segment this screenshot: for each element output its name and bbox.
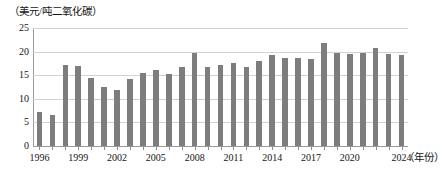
bar-2022 (373, 48, 379, 146)
bar-2005 (153, 70, 159, 146)
bar-2003 (127, 79, 133, 146)
bar-2013 (256, 61, 262, 146)
x-tick-2001 (104, 147, 105, 150)
bar-2023 (386, 54, 392, 146)
x-tick-2020 (350, 147, 351, 150)
x-axis-tick-labels: 1996199920022005200820112014201720202024 (33, 151, 408, 167)
bar-2012 (244, 67, 250, 146)
x-tick-label-2005: 2005 (146, 151, 166, 165)
bar-1997 (50, 115, 56, 146)
x-tick-2019 (337, 147, 338, 150)
x-tick-1999 (78, 147, 79, 150)
x-tick-label-2020: 2020 (340, 151, 360, 165)
x-tick-2024 (402, 147, 403, 150)
x-tick-label-2008: 2008 (185, 151, 205, 165)
x-tick-2003 (130, 147, 131, 150)
x-tick-2016 (298, 147, 299, 150)
bar-2000 (88, 78, 94, 146)
bar-2016 (295, 58, 301, 146)
bar-2015 (282, 58, 288, 146)
x-tick-2005 (156, 147, 157, 150)
bar-2017 (308, 59, 314, 146)
x-tick-2015 (285, 147, 286, 150)
bar-2010 (218, 65, 224, 146)
x-tick-2023 (389, 147, 390, 150)
x-tick-2004 (143, 147, 144, 150)
x-axis-ticks (33, 147, 408, 150)
x-tick-2014 (272, 147, 273, 150)
y-tick-label-10: 10 (19, 94, 29, 104)
x-tick-label-1996: 1996 (29, 151, 49, 165)
y-axis-tick-labels: 2520151050 (0, 28, 29, 146)
bar-2006 (166, 74, 172, 146)
x-tick-1996 (39, 147, 40, 150)
x-tick-label-2017: 2017 (301, 151, 321, 165)
bar-2001 (101, 87, 107, 146)
bar-2008 (192, 53, 198, 146)
x-tick-2008 (195, 147, 196, 150)
y-tick-label-5: 5 (24, 117, 29, 127)
x-tick-label-1999: 1999 (68, 151, 88, 165)
y-tick-label-0: 0 (24, 141, 29, 151)
x-tick-2007 (182, 147, 183, 150)
x-tick-2017 (311, 147, 312, 150)
bar-1999 (75, 66, 81, 146)
x-tick-2010 (221, 147, 222, 150)
x-tick-2018 (324, 147, 325, 150)
y-tick-label-15: 15 (19, 70, 29, 80)
y-axis-unit-label: （美元/吨二氧化碳） (9, 5, 102, 18)
x-tick-label-2014: 2014 (262, 151, 282, 165)
bar-chart: （美元/吨二氧化碳） 2520151050 199619992002200520… (0, 0, 442, 178)
plot-area (33, 28, 408, 146)
x-tick-2012 (246, 147, 247, 150)
bar-2018 (321, 43, 327, 146)
bar-1996 (37, 112, 43, 146)
bar-2007 (179, 67, 185, 146)
x-tick-2000 (91, 147, 92, 150)
x-tick-2022 (376, 147, 377, 150)
bar-2024 (399, 55, 405, 146)
x-tick-2021 (363, 147, 364, 150)
bar-2021 (360, 53, 366, 146)
bar-2004 (140, 73, 146, 146)
x-tick-2011 (233, 147, 234, 150)
x-tick-1997 (52, 147, 53, 150)
x-tick-2002 (117, 147, 118, 150)
x-tick-label-2002: 2002 (107, 151, 127, 165)
x-tick-2009 (208, 147, 209, 150)
y-tick-label-20: 20 (19, 47, 29, 57)
bar-1998 (63, 65, 69, 146)
x-tick-2006 (169, 147, 170, 150)
y-tick-label-25: 25 (19, 23, 29, 33)
x-axis-unit-label: （年份） (404, 151, 442, 165)
x-tick-label-2011: 2011 (224, 151, 244, 165)
bar-2014 (269, 55, 275, 146)
x-tick-2013 (259, 147, 260, 150)
bar-2002 (114, 90, 120, 146)
bar-2019 (334, 53, 340, 146)
bar-2011 (231, 63, 237, 146)
bars-series (33, 28, 408, 146)
bar-2009 (205, 67, 211, 146)
bar-2020 (347, 54, 353, 146)
x-tick-1998 (65, 147, 66, 150)
